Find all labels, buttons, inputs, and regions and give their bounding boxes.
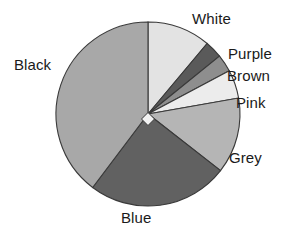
pie-label-grey: Grey [229,150,262,165]
pie-chart: White Purple Brown Pink Grey Blue Black [0,0,298,233]
pie-chart-canvas [0,0,298,233]
pie-label-brown: Brown [227,68,270,83]
pie-label-blue: Blue [121,210,151,225]
pie-label-black: Black [14,57,51,72]
pie-label-pink: Pink [236,95,266,110]
pie-label-purple: Purple [228,46,272,61]
pie-label-white: White [192,11,231,26]
